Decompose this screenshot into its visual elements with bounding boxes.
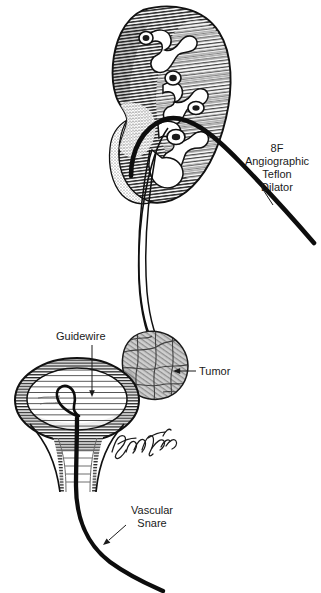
snare-label-line-1: Vascular	[131, 504, 173, 516]
guidewire-label: Guidewire	[56, 330, 106, 342]
snare-label-line-2: Snare	[137, 517, 166, 529]
dilator-label-line-4: Dilator	[261, 181, 293, 193]
dilator-label-line-1: 8F	[271, 142, 284, 154]
medical-illustration: 8F Angiographic Teflon Dilator Guidewire…	[0, 0, 321, 593]
tumor-label: Tumor	[199, 365, 231, 377]
dilator-label-line-2: Angiographic	[245, 155, 310, 167]
dilator-label-line-3: Teflon	[262, 168, 291, 180]
